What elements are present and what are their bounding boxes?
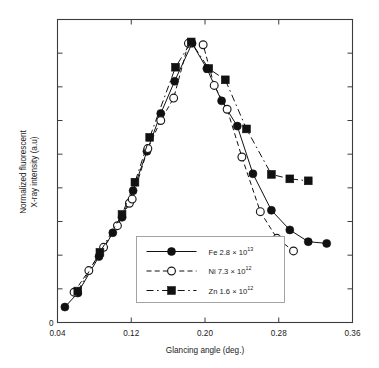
data-point [249,170,257,178]
figure-container: 0.040.120.200.280.360 Fe 2.8 × 1013Ni 7.… [0,0,379,368]
data-point [187,38,195,46]
x-tick-label-3: 0.28 [271,329,287,338]
data-point [238,153,246,161]
data-point [146,133,154,141]
x-axis-title: Glancing angle (deg.) [166,346,245,355]
data-point [267,170,275,178]
legend-label-1: Ni 7.3 × 1012 [209,265,252,276]
data-point [267,206,275,214]
data-point [221,76,229,84]
data-point [172,63,180,71]
data-point [96,248,104,256]
x-tick-label-4: 0.36 [345,329,361,338]
data-point [256,208,264,216]
data-point [118,211,126,219]
data-point [199,41,207,49]
data-point [243,125,251,133]
data-point [131,178,139,186]
data-point [233,122,241,130]
data-point [290,247,298,255]
y-zero-label: 0 [49,319,54,328]
data-point [304,238,312,246]
data-point [157,117,165,125]
legend-label-2: Zn 1.6 × 1012 [209,285,254,296]
legend-exponent-2: 12 [247,285,253,291]
y-axis-title-line1: Normalized fluorescent [19,129,28,213]
y-axis-title-line2: X-ray intensity (a.u) [30,136,39,207]
x-tick-label-2: 0.20 [197,329,213,338]
data-point [286,226,294,234]
legend-exponent-1: 12 [245,265,251,271]
data-point [144,145,152,153]
x-tick-label-0: 0.04 [50,329,66,338]
data-point [210,82,218,90]
data-point [61,303,69,311]
legend-marker-filled-square [168,287,176,295]
chart-legend: Fe 2.8 × 1013Ni 7.3 × 1012Zn 1.6 × 1012 [137,237,285,303]
data-point [323,239,331,247]
chart-canvas: 0.040.120.200.280.360 Fe 2.8 × 1013Ni 7.… [0,0,379,368]
data-point [304,177,312,185]
data-point [286,175,294,183]
data-point [205,65,213,73]
data-point [128,195,136,203]
data-point [74,287,82,295]
legend-label-0: Fe 2.8 × 1013 [209,246,254,257]
data-point [223,105,231,113]
legend-exponent-0: 13 [247,246,253,252]
data-point [170,94,178,102]
x-tick-label-1: 0.12 [123,329,139,338]
legend-marker-filled-circle [168,248,176,256]
legend-marker-open-circle [168,267,176,275]
